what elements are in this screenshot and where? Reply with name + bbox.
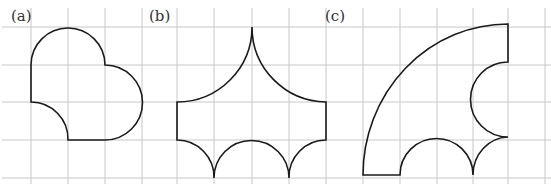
panel-label-a: (a) bbox=[11, 7, 32, 25]
panel-label-b: (b) bbox=[149, 7, 170, 25]
figure-canvas: (a) (b) (c) bbox=[0, 0, 551, 184]
shape-a bbox=[31, 28, 143, 140]
panel-label-c: (c) bbox=[325, 7, 345, 25]
shape-c bbox=[363, 24, 508, 175]
